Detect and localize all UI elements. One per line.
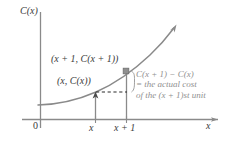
difference-bracket: [132, 72, 135, 93]
marker-point-x-plus-1: [123, 68, 129, 74]
point-label-x-plus-1: (x + 1, C(x + 1)): [51, 54, 118, 65]
tick-label-x-plus-1: x + 1: [114, 123, 135, 134]
y-axis-label: C(x): [20, 6, 38, 17]
point-label-x: (x, C(x)): [57, 76, 91, 87]
cost-function-diagram: C(x) x 0 x x + 1 (x + 1, C(x + 1)) (x, C…: [0, 0, 229, 144]
tick-label-x: x: [89, 123, 93, 134]
x-axis-label: x: [206, 121, 210, 132]
annotation-line-3: of the (x + 1)st unit: [136, 91, 206, 101]
marginal-cost-annotation: C(x + 1) − C(x) = the actual cost of the…: [136, 70, 206, 101]
origin-label: 0: [33, 121, 38, 132]
